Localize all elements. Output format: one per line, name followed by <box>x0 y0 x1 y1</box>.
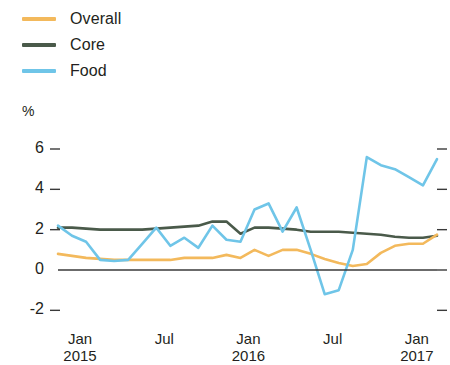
y-axis-tick-label: 4 <box>18 180 44 196</box>
x-axis-tick-label: Jan2016 <box>213 330 283 364</box>
series-lines <box>58 157 437 294</box>
series-line-food <box>58 157 437 294</box>
inflation-line-chart: Overall Core Food % -20246 Jan2015JulJan… <box>0 0 450 365</box>
plot-area <box>0 0 450 365</box>
y-axis-tick-label: 2 <box>18 221 44 237</box>
x-axis-tick-label: Jul <box>298 330 368 347</box>
x-axis-tick-label: Jul <box>129 330 199 347</box>
x-axis-tick-label: Jan2017 <box>382 330 450 364</box>
y-axis-tick-label: 0 <box>18 261 44 277</box>
y-axis-tick-label: 6 <box>18 140 44 156</box>
x-axis-tick-label: Jan2015 <box>45 330 115 364</box>
y-axis-tick-label: -2 <box>18 301 44 317</box>
